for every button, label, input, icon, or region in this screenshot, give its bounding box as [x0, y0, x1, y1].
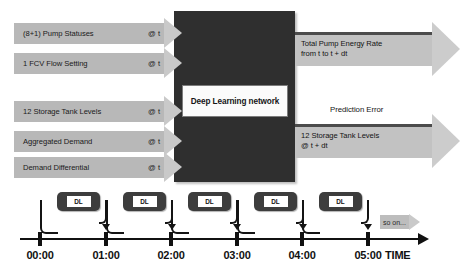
timeline-tick-label: 05:00: [354, 249, 381, 261]
timeline-step-dl: DL: [254, 192, 297, 211]
step-connector-up: [106, 200, 124, 234]
step-connector-up: [40, 200, 58, 234]
input-time-fcv-flow-setting: @ t: [148, 59, 160, 68]
timeline-continuation-arrow: so on...: [380, 214, 420, 230]
timeline-arrow-icon: [418, 233, 429, 245]
output-label-storage-tank-levels: 12 Storage Tank Levels @ t + dt: [301, 131, 379, 150]
input-time-pump-statuses: @ t: [148, 29, 160, 38]
timeline-axis: [20, 238, 420, 240]
arrow-head-icon: [409, 214, 420, 230]
prediction-error-label: Prediction Error: [330, 105, 383, 114]
timeline-step-dl: DL: [57, 192, 100, 211]
input-time-storage-tank-levels: @ t: [148, 107, 160, 116]
timeline-tick-label: 01:00: [92, 249, 119, 261]
timeline-axis-label: TIME: [385, 249, 410, 261]
input-arrow-pump-statuses: (8+1) Pump Statuses @ t: [14, 18, 182, 48]
input-label-storage-tank-levels: 12 Storage Tank Levels: [14, 107, 101, 116]
timeline-continuation-label: so on...: [383, 219, 406, 226]
input-arrow-demand-differential: Demand Differential @ t: [14, 152, 182, 182]
output-arrow-pump-energy-rate: Total Pump Energy Rate from t to t + dt: [295, 22, 460, 76]
timeline-step-label: DL: [329, 196, 353, 207]
step-connector-down: [361, 200, 369, 224]
arrow-head-icon: [164, 48, 182, 78]
timeline-tick-label: 04:00: [288, 249, 315, 261]
input-label-fcv-flow-setting: 1 FCV Flow Setting: [14, 59, 88, 68]
timeline-step-label: DL: [133, 196, 157, 207]
input-label-pump-statuses: (8+1) Pump Statuses: [14, 29, 94, 38]
input-arrow-storage-tank-levels: 12 Storage Tank Levels @ t: [14, 96, 182, 126]
output-label-pump-energy-rate: Total Pump Energy Rate from t to t + dt: [301, 39, 382, 58]
timeline-tick: [104, 232, 108, 246]
arrow-head-icon: [164, 18, 182, 48]
step-connector-up: [171, 200, 189, 234]
timeline-tick: [235, 232, 239, 246]
timeline-step-label: DL: [264, 196, 288, 207]
timeline-step-label: DL: [67, 196, 91, 207]
timeline-tick: [169, 232, 173, 246]
input-label-aggregated-demand: Aggregated Demand: [14, 137, 92, 146]
input-time-aggregated-demand: @ t: [148, 137, 160, 146]
arrow-head-icon: [164, 152, 182, 182]
timeline-tick: [38, 232, 42, 246]
input-arrow-fcv-flow-setting: 1 FCV Flow Setting @ t: [14, 48, 182, 78]
output-arrow-storage-tank-levels: 12 Storage Tank Levels @ t + dt: [295, 114, 460, 168]
timeline-step-dl: DL: [123, 192, 166, 211]
step-connector-up: [237, 200, 255, 234]
timeline-tick: [366, 232, 370, 246]
input-label-demand-differential: Demand Differential: [14, 163, 89, 172]
timeline-tick-label: 00:00: [26, 249, 53, 261]
timeline-tick: [300, 232, 304, 246]
input-time-demand-differential: @ t: [148, 163, 160, 172]
deep-learning-label-box: Deep Learning network: [182, 85, 288, 117]
timeline-tick-label: 02:00: [157, 249, 184, 261]
step-connector-up: [302, 200, 320, 234]
timeline-step-label: DL: [198, 196, 222, 207]
deep-learning-label: Deep Learning network: [191, 97, 279, 106]
timeline-tick-label: 03:00: [223, 249, 250, 261]
arrow-head-icon: [164, 96, 182, 126]
architecture-diagram: Deep Learning network (8+1) Pump Statuse…: [0, 0, 465, 268]
timeline-step-dl: DL: [188, 192, 231, 211]
timeline-step-dl: DL: [319, 192, 362, 211]
step-arrow-icon: [364, 224, 372, 230]
arrow-head-icon: [432, 114, 460, 168]
arrow-head-icon: [432, 22, 460, 76]
